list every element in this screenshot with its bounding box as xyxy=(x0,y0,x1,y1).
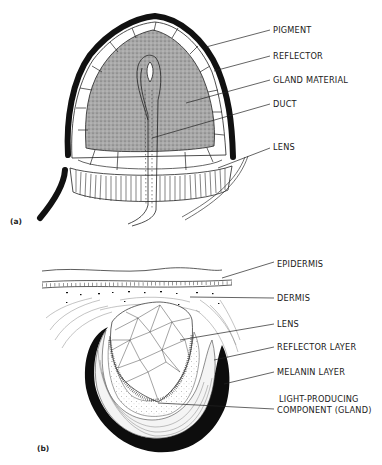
label-gland-material: GLAND MATERIAL xyxy=(273,75,348,85)
label-light-producing: LIGHT-PRODUCING xyxy=(279,394,359,404)
label-duct: DUCT xyxy=(273,99,298,109)
label-reflector: REFLECTOR xyxy=(273,51,323,61)
label-epidermis: EPIDERMIS xyxy=(277,259,323,269)
panel-b-organ xyxy=(42,268,240,453)
label-lens-b: LENS xyxy=(277,319,299,329)
lens-a xyxy=(70,166,232,202)
label-pigment: PIGMENT xyxy=(273,25,312,35)
label-lens-a: LENS xyxy=(273,142,295,152)
photophore-diagram: PIGMENT REFLECTOR GLAND MATERIAL DUCT LE… xyxy=(0,0,382,465)
panel-a-organ xyxy=(40,16,248,226)
label-component-gland: COMPONENT (GLAND) xyxy=(277,405,372,415)
panel-tag-b: (b) xyxy=(37,444,49,453)
panel-tag-a: (a) xyxy=(10,217,22,226)
label-reflector-layer: REFLECTOR LAYER xyxy=(277,342,356,352)
label-dermis: DERMIS xyxy=(277,293,310,303)
label-melanin-layer: MELANIN LAYER xyxy=(277,367,345,377)
epidermis xyxy=(42,268,222,271)
